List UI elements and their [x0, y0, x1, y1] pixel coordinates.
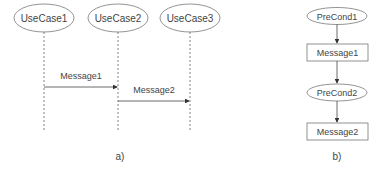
flow-diagram: PreCond1 Message1 PreCond2 Message2 b)	[307, 8, 368, 163]
node-label: PreCond2	[317, 88, 358, 98]
caption-b: b)	[333, 151, 342, 162]
precondition-node-1: PreCond1	[307, 8, 367, 25]
lifeline-usecase3: UseCase3	[160, 4, 220, 132]
lifeline-usecase1: UseCase1	[14, 4, 74, 132]
node-label: Message1	[317, 48, 359, 58]
usecase-label: UseCase1	[21, 13, 68, 24]
caption-a: a)	[116, 151, 125, 162]
message-label: Message2	[133, 85, 175, 95]
message-arrow-2: Message2	[118, 85, 189, 101]
message-node-2: Message2	[307, 123, 368, 140]
node-label: Message2	[317, 127, 359, 137]
message-label: Message1	[60, 71, 102, 81]
message-arrow-1: Message1	[44, 71, 117, 87]
sequence-diagram: UseCase1 UseCase2 UseCase3 Message1 Mess…	[14, 4, 220, 162]
message-node-1: Message1	[307, 44, 368, 61]
node-label: PreCond1	[317, 12, 358, 22]
diagram-canvas: UseCase1 UseCase2 UseCase3 Message1 Mess…	[0, 0, 383, 172]
precondition-node-2: PreCond2	[307, 84, 367, 101]
lifeline-usecase2: UseCase2	[88, 4, 148, 132]
usecase-label: UseCase2	[95, 13, 142, 24]
usecase-label: UseCase3	[167, 13, 214, 24]
